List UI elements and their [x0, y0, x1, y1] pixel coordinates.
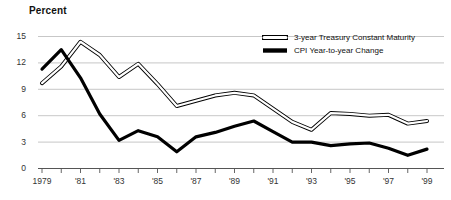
x-axis-tick-label: '93	[306, 176, 317, 186]
x-axis-tick-label: '89	[229, 176, 240, 186]
solid-line-swatch-icon	[262, 46, 288, 55]
y-axis-tick-label: 15	[8, 31, 26, 41]
legend-item-cpi: CPI Year-to-year Change	[262, 44, 415, 57]
x-axis-tick-label: '95	[344, 176, 355, 186]
x-axis-group	[42, 169, 427, 174]
y-axis-tick-label: 3	[8, 137, 26, 147]
legend-label-cpi: CPI Year-to-year Change	[294, 46, 383, 55]
plot-area	[0, 0, 451, 200]
x-axis-tick-label: '87	[190, 176, 201, 186]
x-axis-tick-label: '91	[267, 176, 278, 186]
y-axis-tick-label: 0	[8, 163, 26, 173]
legend-item-treasury: 3-year Treasury Constant Maturity	[262, 31, 415, 44]
chart-container: Percent 03691215 1979'81'83'85'87'89'91'…	[0, 0, 451, 200]
x-axis-tick-label: '81	[75, 176, 86, 186]
y-axis-tick-label: 6	[8, 110, 26, 120]
x-axis-tick-label: '85	[152, 176, 163, 186]
y-axis-tick-label: 12	[8, 57, 26, 67]
chart-legend: 3-year Treasury Constant Maturity CPI Ye…	[262, 31, 415, 57]
x-axis-tick-label: '99	[421, 176, 432, 186]
legend-label-treasury: 3-year Treasury Constant Maturity	[294, 33, 415, 42]
x-axis-tick-label: '83	[113, 176, 124, 186]
x-axis-tick-label: 1979	[33, 176, 52, 186]
chart-svg	[0, 0, 451, 200]
data-series-group	[42, 42, 427, 156]
x-axis-tick-label: '97	[383, 176, 394, 186]
y-axis-tick-label: 9	[8, 84, 26, 94]
series-line-cpi	[42, 50, 427, 156]
hollow-line-swatch-icon	[262, 33, 288, 42]
